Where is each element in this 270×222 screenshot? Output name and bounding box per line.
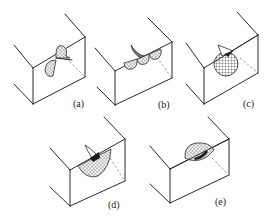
- sphere: [214, 52, 238, 76]
- hidden-edge: [157, 57, 171, 77]
- hidden-edge: [212, 158, 228, 174]
- panel-d: (d): [50, 117, 125, 211]
- panel-label-b: (b): [158, 99, 170, 111]
- panel-label-a: (a): [73, 98, 84, 110]
- panel-label-d: (d): [108, 199, 120, 211]
- lower-lobe: [45, 60, 56, 76]
- panel-a: (a): [14, 14, 85, 110]
- box-outline: [14, 14, 85, 104]
- panel-label-e: (e): [215, 196, 226, 208]
- panel-b: (b): [95, 18, 172, 111]
- hidden-edge: [110, 158, 124, 180]
- diagram-canvas: (a) (b): [0, 0, 270, 222]
- panel-c: (c): [186, 12, 258, 110]
- lobe-1: [124, 59, 137, 69]
- panel-label-c: (c): [243, 98, 254, 110]
- curved-tail: [131, 45, 144, 58]
- hidden-edge: [240, 58, 257, 72]
- panel-e: (e): [150, 117, 229, 208]
